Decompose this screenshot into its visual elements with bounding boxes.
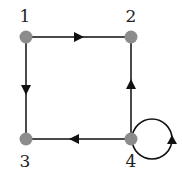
graph-diagram: 1 2 3 4 xyxy=(0,0,182,176)
node-3 xyxy=(20,133,33,146)
arrow-left-icon xyxy=(69,134,79,144)
node-4 xyxy=(125,133,138,146)
arrow-loop-up-icon xyxy=(167,135,177,144)
labels: 1 2 3 4 xyxy=(20,6,137,171)
nodes xyxy=(20,31,138,146)
arrow-down-icon xyxy=(21,85,31,95)
arrow-up-icon xyxy=(126,79,136,89)
node-label-4: 4 xyxy=(126,151,137,171)
edge-4-self-loop xyxy=(132,119,172,159)
node-1 xyxy=(20,31,33,44)
arrowheads xyxy=(21,32,177,144)
edges xyxy=(26,37,172,159)
node-label-2: 2 xyxy=(126,6,137,26)
arrow-right-icon xyxy=(74,32,84,42)
node-label-1: 1 xyxy=(20,6,31,26)
node-label-3: 3 xyxy=(20,151,31,171)
node-2 xyxy=(125,31,138,44)
